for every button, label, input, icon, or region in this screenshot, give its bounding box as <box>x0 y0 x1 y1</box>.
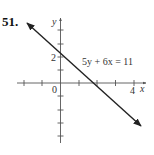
equation-line <box>27 23 141 126</box>
y-axis-label: y <box>51 16 57 27</box>
origin-label: 0 <box>52 84 57 95</box>
x-tick-label-4: 4 <box>130 85 135 96</box>
y-tick-label-2: 2 <box>51 52 56 63</box>
graph-figure: 51. <box>0 0 154 155</box>
x-axis-label: x <box>139 83 145 94</box>
coordinate-plane: y x 2 0 4 5y + 6x = 11 <box>0 0 154 155</box>
equation-label: 5y + 6x = 11 <box>82 56 133 67</box>
